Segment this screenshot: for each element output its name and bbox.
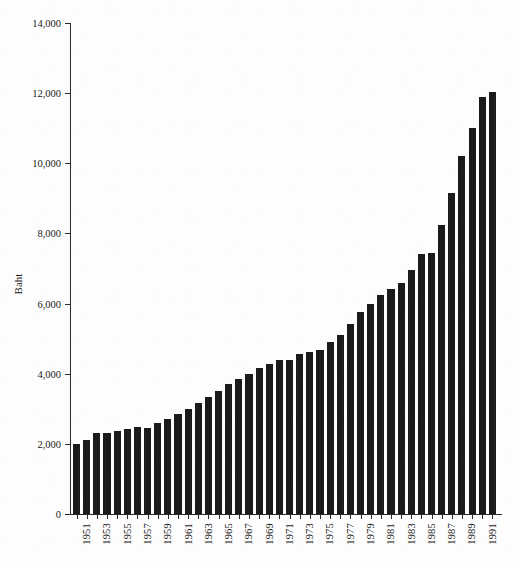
x-axis-tick [178,514,179,519]
x-axis-tick-label: 1973 [304,523,315,545]
y-axis-tick-label: 12,000 [32,88,61,99]
bar [114,431,121,514]
bar [195,403,202,514]
x-axis-tick-label: 1951 [81,523,92,545]
bar [256,368,263,514]
x-axis-tick-label: 1961 [183,523,194,545]
y-axis-tick [65,514,70,515]
y-axis-tick [65,163,70,164]
y-axis-tick-label: 14,000 [32,18,61,29]
x-axis-tick [432,514,433,519]
bar [458,156,465,514]
bar [93,433,100,514]
y-axis-tick-label: 10,000 [32,158,61,169]
y-axis-tick-label: 4,000 [37,368,61,379]
x-axis-tick [77,514,78,519]
bar [327,342,334,514]
y-axis-tick [65,304,70,305]
x-axis-tick [107,514,108,519]
bar [418,254,425,514]
y-axis-tick-label: 0 [56,509,61,520]
x-axis-tick [87,514,88,519]
bar [357,312,364,514]
x-axis-tick-label: 1977 [345,523,356,545]
x-axis-tick-label: 1979 [365,523,376,545]
bar [408,270,415,514]
x-axis-line [70,514,502,515]
x-axis-tick [148,514,149,519]
bar [428,253,435,514]
x-axis-tick [350,514,351,519]
bar [205,397,212,514]
x-axis-tick [442,514,443,519]
x-axis-tick [401,514,402,519]
x-axis-tick [168,514,169,519]
x-axis-tick [269,514,270,519]
y-axis-tick [65,93,70,94]
x-axis-tick [229,514,230,519]
x-axis-tick [97,514,98,519]
x-axis-tick [340,514,341,519]
x-axis-tick-label: 1959 [162,523,173,545]
x-axis-tick [249,514,250,519]
bar [276,360,283,514]
x-axis-tick-label: 1975 [324,523,335,545]
bar [103,433,110,514]
bar [83,440,90,514]
x-axis-tick [371,514,372,519]
y-axis-tick [65,444,70,445]
bar [387,289,394,515]
bar [316,350,323,514]
x-axis-tick [290,514,291,519]
x-axis-tick [259,514,260,519]
x-axis-tick-label: 1953 [101,523,112,545]
y-axis-label: Baht [12,274,24,295]
x-axis-tick [137,514,138,519]
y-axis-tick-label: 6,000 [37,298,61,309]
x-axis-tick [482,514,483,519]
bar [296,354,303,514]
x-axis-tick [381,514,382,519]
x-axis-tick [330,514,331,519]
x-axis-tick [239,514,240,519]
bar [337,335,344,514]
bar [154,423,161,514]
bar [306,352,313,514]
bar [174,414,181,514]
y-axis-tick-label: 2,000 [37,438,61,449]
x-axis-tick [219,514,220,519]
x-axis-tick [310,514,311,519]
x-axis-tick [361,514,362,519]
bar [479,97,486,514]
bar [185,409,192,514]
x-axis-tick [411,514,412,519]
x-axis-tick [472,514,473,519]
bar [235,379,242,514]
x-axis-tick [300,514,301,519]
x-axis-tick [421,514,422,519]
bar [398,283,405,514]
x-axis-tick-label: 1981 [385,523,396,545]
bar [438,225,445,514]
bar [469,128,476,514]
x-axis-tick-label: 1957 [142,523,153,545]
bar [73,444,80,514]
bar [144,428,151,514]
x-axis-tick [198,514,199,519]
x-axis-tick-label: 1987 [446,523,457,545]
bar [225,384,232,514]
bar [134,427,141,514]
y-axis-tick-label: 8,000 [37,228,61,239]
x-axis-tick [127,514,128,519]
x-axis-tick-label: 1969 [264,523,275,545]
bar [124,429,131,514]
bar [286,360,293,514]
x-axis-tick-label: 1991 [487,523,498,545]
bar [377,295,384,514]
x-axis-tick-label: 1963 [203,523,214,545]
y-axis-tick [65,374,70,375]
bar [215,391,222,514]
x-axis-tick-label: 1983 [406,523,417,545]
y-axis-tick [65,233,70,234]
x-axis-tick [320,514,321,519]
